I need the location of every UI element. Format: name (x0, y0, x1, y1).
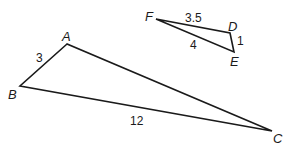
vertex-label-e: E (230, 54, 239, 69)
side-label-de: 1 (237, 34, 244, 48)
side-label-ab: 3 (36, 51, 43, 65)
vertex-label-d: D (228, 19, 237, 34)
vertex-label-f: F (145, 9, 154, 24)
side-label-bc: 12 (130, 114, 144, 128)
side-label-fe: 4 (190, 38, 197, 52)
vertex-label-b: B (8, 87, 17, 102)
vertex-label-a: A (61, 29, 71, 44)
diagram-canvas: A B C 3 12 F D E 3.5 1 4 (0, 0, 286, 150)
side-label-fd: 3.5 (185, 11, 202, 25)
vertex-label-c: C (273, 131, 283, 146)
triangles-figure: A B C 3 12 F D E 3.5 1 4 (0, 0, 286, 150)
